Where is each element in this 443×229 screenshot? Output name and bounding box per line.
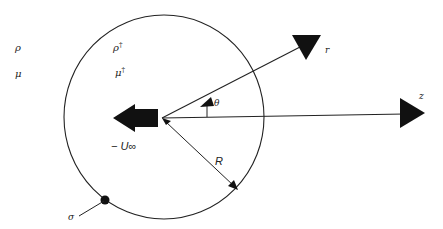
radius-arrowhead-inner-icon [162, 118, 171, 125]
r-axis-label: r [325, 46, 329, 55]
velocity-label: − U∞ [111, 141, 136, 152]
z-axis-arrowhead-icon [400, 98, 425, 128]
theta-label: θ [214, 99, 219, 108]
theta-arrowhead-icon [200, 97, 214, 107]
z-axis-line [162, 114, 405, 118]
inner-density-label: ρ† [113, 42, 122, 53]
inner-viscosity-label: μ† [115, 67, 125, 78]
velocity-arrow-icon [113, 104, 158, 132]
inner-viscosity-dagger: † [122, 66, 126, 74]
surface-tension-dot [101, 196, 110, 205]
surface-tension-label: σ [68, 213, 74, 222]
radius-line [166, 122, 234, 186]
drop-diagram [0, 0, 443, 229]
inner-density-dagger: † [119, 41, 123, 49]
radius-label: R [215, 156, 223, 167]
r-axis-arrowhead-icon [292, 35, 321, 60]
surface-tension-leader-line [79, 201, 104, 216]
outer-viscosity-label: μ [15, 69, 22, 79]
outer-density-label: ρ [15, 43, 21, 53]
z-axis-label: z [419, 92, 424, 101]
r-axis-line [162, 47, 300, 118]
